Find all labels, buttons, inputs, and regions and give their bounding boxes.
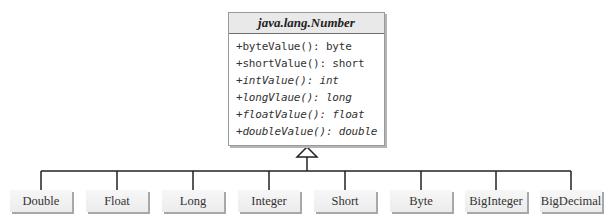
- subclass-long: Long: [162, 190, 224, 212]
- subclass-bigdecimal: BigDecimal: [540, 190, 602, 212]
- subclass-float: Float: [86, 190, 148, 212]
- method-shortValue: +shortValue(): short: [236, 55, 384, 72]
- method-byteValue: +byteValue(): byte: [236, 38, 384, 55]
- method-longValue: +longVlaue(): long: [236, 89, 384, 106]
- method-intValue: +intValue(): int: [236, 72, 384, 89]
- method-doubleValue: +doubleValue(): double: [236, 123, 384, 140]
- subclass-byte: Byte: [390, 190, 452, 212]
- superclass-name: java.lang.Number: [229, 13, 384, 34]
- method-floatValue: +floatValue(): float: [236, 106, 384, 123]
- superclass-box: java.lang.Number +byteValue(): byte +sho…: [228, 12, 385, 146]
- inheritance-arrow-icon: [297, 147, 317, 157]
- subclass-integer: Integer: [238, 190, 300, 212]
- method-list: +byteValue(): byte +shortValue(): short …: [229, 34, 384, 140]
- subclass-biginteger: BigInteger: [465, 190, 527, 212]
- subclass-short: Short: [314, 190, 376, 212]
- subclass-double: Double: [10, 190, 72, 212]
